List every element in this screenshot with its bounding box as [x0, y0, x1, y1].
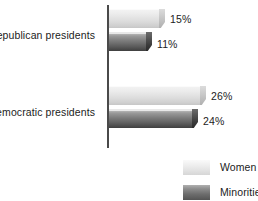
- legend-item-minorities: Minorities: [183, 184, 258, 200]
- category-label-democratic-presidents: Democratic presidents: [0, 106, 95, 118]
- bar-end-bevel: [146, 32, 152, 51]
- bar-body: [109, 32, 147, 51]
- bar-body: [109, 9, 160, 28]
- bar-chart: Republican presidents Democratic preside…: [0, 0, 258, 201]
- bar-democratic-minorities: [109, 109, 198, 128]
- legend-swatch-women: [183, 160, 210, 175]
- value-label-republican-women: 15%: [170, 13, 191, 25]
- bar-democratic-women: [109, 86, 206, 105]
- bar-republican-women: [109, 9, 165, 28]
- bar-end-bevel: [159, 9, 165, 28]
- value-label-democratic-women: 26%: [211, 90, 232, 102]
- legend-swatch-minorities: [183, 185, 210, 200]
- value-label-democratic-minorities: 24%: [203, 115, 224, 127]
- category-label-republican-presidents: Republican presidents: [0, 29, 95, 41]
- legend-label-women: Women: [220, 161, 257, 173]
- bar-body: [109, 109, 193, 128]
- bar-body: [109, 86, 201, 105]
- legend-label-minorities: Minorities: [220, 186, 258, 198]
- value-label-republican-minorities: 11%: [157, 38, 178, 50]
- legend-item-women: Women: [183, 159, 257, 175]
- bar-end-bevel: [200, 86, 206, 105]
- bar-end-bevel: [192, 109, 198, 128]
- bar-republican-minorities: [109, 32, 152, 51]
